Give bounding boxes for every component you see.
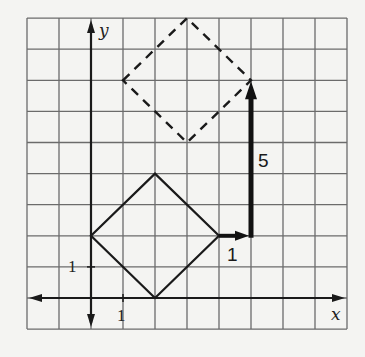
coordinate-plane-figure: y x 1 1 1 5 [0,0,365,357]
x-tick-label: 1 [117,306,126,325]
y-tick-label: 1 [68,257,77,276]
horizontal-arrowhead-icon [235,231,249,241]
y-axis-arrow-down-icon [87,314,95,327]
grid-lines [27,18,347,329]
x-axis-arrow-right-icon [332,294,345,302]
vertical-shift-label: 5 [258,150,269,171]
x-axis-arrow-left-icon [29,294,42,302]
horizontal-shift-label: 1 [227,244,238,265]
y-axis-label: y [98,20,109,40]
y-axis-arrow-up-icon [87,20,95,33]
x-axis-label: x [331,304,341,324]
